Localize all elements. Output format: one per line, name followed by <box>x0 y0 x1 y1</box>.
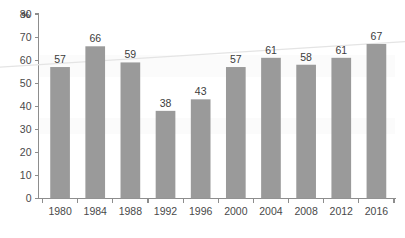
bar <box>85 46 105 198</box>
bar <box>191 99 211 198</box>
y-tick-label: 0 <box>26 192 32 204</box>
bar-value-label: 67 <box>371 30 383 42</box>
bar-value-label: 57 <box>230 53 242 65</box>
bar-value-label: 61 <box>335 44 347 56</box>
x-tick-label: 2008 <box>294 205 318 217</box>
y-tick-label: 60 <box>20 54 32 66</box>
bar <box>367 44 387 199</box>
bar-value-label: 43 <box>195 85 207 97</box>
bar-chart: 01020304050607080 57665938435761586167 1… <box>0 0 405 238</box>
bar <box>156 111 176 199</box>
bar-value-label: 61 <box>265 44 277 56</box>
x-tick-label: 2004 <box>259 205 283 217</box>
x-tick-label: 2016 <box>365 205 389 217</box>
y-tick-label: 30 <box>20 123 32 135</box>
x-tick-label: 2012 <box>330 205 354 217</box>
y-tick-label: 20 <box>20 146 32 158</box>
y-tick-label: 70 <box>20 31 32 43</box>
bar <box>226 67 246 198</box>
x-tick-label: 1980 <box>48 205 72 217</box>
bar-value-label: 66 <box>89 32 101 44</box>
bar <box>50 67 70 198</box>
x-tick-label: 2000 <box>224 205 248 217</box>
bar-value-label: 58 <box>300 51 312 63</box>
y-tick-label: 50 <box>20 77 32 89</box>
bar <box>121 62 141 198</box>
y-tick-label: 10 <box>20 169 32 181</box>
x-tick-label: 1988 <box>119 205 143 217</box>
bar <box>331 58 351 199</box>
x-tick-label: 1992 <box>154 205 178 217</box>
x-tick-label: 1984 <box>84 205 108 217</box>
bar <box>296 65 316 199</box>
bar-value-label: 57 <box>54 53 66 65</box>
x-tick-label: 1996 <box>189 205 213 217</box>
y-tick-label: 40 <box>20 100 32 112</box>
bar <box>261 58 281 199</box>
y-axis-unit-label: % <box>22 9 31 20</box>
bar-value-label: 38 <box>160 97 172 109</box>
bar-value-label: 59 <box>125 48 137 60</box>
chart-canvas: 01020304050607080 57665938435761586167 1… <box>0 0 405 238</box>
